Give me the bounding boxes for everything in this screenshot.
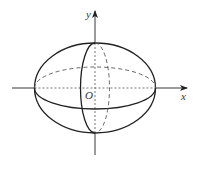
- y-axis-label: y: [85, 8, 91, 20]
- x-axis-label: x: [180, 90, 186, 102]
- ellipsoid-diagram: y x O: [0, 0, 202, 171]
- origin-label: O: [85, 89, 93, 101]
